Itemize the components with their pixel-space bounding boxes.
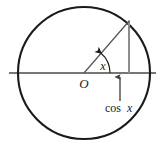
origin-label: O <box>79 76 89 91</box>
cosine-label-variable: x <box>126 101 133 115</box>
unit-circle-diagram-canvas: O x cos x <box>0 0 164 151</box>
angle-label: x <box>99 59 106 73</box>
unit-circle-figure: O x cos x <box>0 0 164 151</box>
cosine-label: cos x <box>105 101 133 115</box>
radius-ray-line <box>84 21 130 74</box>
cosine-label-prefix: cos <box>105 101 121 115</box>
